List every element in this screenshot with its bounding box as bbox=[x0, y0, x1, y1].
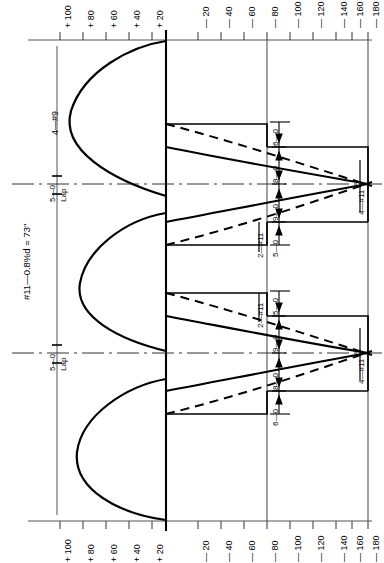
axis-ticks-bottom bbox=[60, 521, 368, 529]
bar-group-label-inner-lower: 2—#11 bbox=[257, 303, 265, 328]
lap-label-lower-size: 5—0 bbox=[49, 354, 57, 371]
axis-label-top-pos-80: + 80 bbox=[87, 10, 96, 28]
lap-label-lower-text: Lap bbox=[60, 358, 68, 371]
bar-group-label-inner-upper: 2—#11 bbox=[257, 233, 265, 258]
axis-label-top-neg-60: — 60 bbox=[248, 6, 257, 28]
axis-label-top-neg-120: — 120 bbox=[317, 1, 326, 28]
axis-label-bottom-pos-60: + 60 bbox=[110, 544, 119, 562]
axis-label-bottom-neg-60: — 60 bbox=[248, 540, 257, 562]
figure-canvas: + 100 + 80 + 60 + 40 + 20 — 20 — 40 — 60… bbox=[0, 0, 384, 563]
axis-label-bottom-neg-80: — 80 bbox=[271, 540, 280, 562]
axis-label-top-pos-100: + 100 bbox=[64, 5, 73, 28]
dim-label-upper-1: 6—0 bbox=[272, 129, 280, 146]
axis-label-top-neg-20: — 20 bbox=[202, 6, 211, 28]
support-centerlines bbox=[12, 184, 382, 353]
axis-label-top-pos-60: + 60 bbox=[110, 10, 119, 28]
axis-ticks-top bbox=[60, 32, 368, 40]
dim-label-upper-2: 8—0 bbox=[272, 166, 280, 183]
bar-group-label-outer-lower: 4—#11 bbox=[358, 359, 366, 384]
axis-label-bottom-neg-120: — 120 bbox=[317, 535, 326, 562]
member-description-label: #11—0.8%d = 73″ bbox=[22, 224, 32, 300]
axis-label-bottom-neg-40: — 40 bbox=[225, 540, 234, 562]
axis-label-top-neg-160: — 160 bbox=[356, 1, 365, 28]
axis-label-top-neg-40: — 40 bbox=[225, 6, 234, 28]
diagram-svg bbox=[0, 0, 384, 563]
axis-label-bottom-neg-160: — 160 bbox=[356, 535, 365, 562]
dim-label-lower-3: 8—0 bbox=[272, 373, 280, 390]
axis-label-top-neg-180: — 180 bbox=[372, 1, 381, 28]
axis-label-top-pos-20: + 20 bbox=[156, 10, 165, 28]
axis-label-bottom-pos-20: + 20 bbox=[156, 544, 165, 562]
lap-label-upper-size: 5—0 bbox=[49, 185, 57, 202]
axis-label-top-neg-140: — 140 bbox=[340, 1, 349, 28]
vertical-reference-lines bbox=[57, 30, 368, 531]
axis-label-bottom-pos-100: + 100 bbox=[64, 539, 73, 562]
axis-label-bottom-neg-180: — 180 bbox=[372, 535, 381, 562]
axis-label-top-neg-100: — 100 bbox=[294, 1, 303, 28]
dim-label-lower-4: 6—0 bbox=[272, 409, 280, 426]
axis-label-bottom-neg-20: — 20 bbox=[202, 540, 211, 562]
axis-label-bottom-neg-140: — 140 bbox=[340, 535, 349, 562]
axis-label-top-neg-80: — 80 bbox=[271, 6, 280, 28]
axis-label-bottom-neg-100: — 100 bbox=[294, 535, 303, 562]
dim-label-upper-3: 9—0 bbox=[272, 204, 280, 221]
axis-label-top-pos-40: + 40 bbox=[133, 10, 142, 28]
bar-group-label-outer-upper: 4—#11 bbox=[358, 190, 366, 215]
positive-moment-envelope bbox=[70, 41, 166, 520]
axis-label-bottom-pos-40: + 40 bbox=[133, 544, 142, 562]
lap-label-upper-text: Lap bbox=[60, 189, 68, 202]
axis-label-bottom-pos-80: + 80 bbox=[87, 544, 96, 562]
dim-label-lower-1: 5—0 bbox=[272, 298, 280, 315]
dim-label-lower-2: 9—0 bbox=[272, 335, 280, 352]
dim-label-upper-4: 5—0 bbox=[272, 240, 280, 257]
bar-group-label-4-9: 4—#9 bbox=[51, 111, 60, 135]
